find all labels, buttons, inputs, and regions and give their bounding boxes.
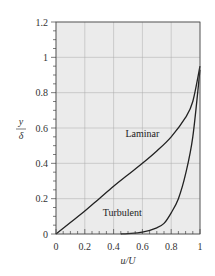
boundary-layer-chart: 00.20.40.60.81 00.20.40.60.811.2 u/U y δ… [0, 0, 215, 276]
y-tick-label: 0.6 [36, 123, 49, 134]
y-tick-labels: 00.20.40.60.811.2 [36, 17, 49, 240]
label-turbulent: Turbulent [103, 207, 142, 218]
y-axis-title-denominator: δ [19, 130, 24, 141]
y-tick-label: 0.4 [36, 158, 49, 169]
x-tick-label: 1 [198, 241, 203, 252]
y-tick-label: 0.2 [36, 193, 49, 204]
y-tick-label: 1 [43, 52, 48, 63]
x-tick-label: 0.4 [107, 241, 120, 252]
y-tick-label: 0 [43, 229, 48, 240]
x-tick-labels: 00.20.40.60.81 [54, 241, 203, 252]
x-tick-label: 0 [54, 241, 59, 252]
y-tick-label: 0.8 [36, 87, 49, 98]
label-laminar: Laminar [125, 128, 160, 139]
x-axis-title: u/U [121, 255, 137, 266]
y-tick-label: 1.2 [36, 17, 49, 28]
x-tick-label: 0.8 [165, 241, 178, 252]
y-axis-title-numerator: y [18, 116, 24, 127]
x-tick-label: 0.2 [79, 241, 92, 252]
x-tick-label: 0.6 [136, 241, 149, 252]
